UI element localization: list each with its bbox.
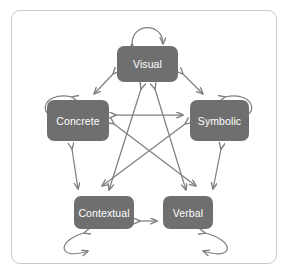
self-loop-contextual <box>64 233 88 254</box>
node-concrete[interactable]: Concrete <box>47 100 109 141</box>
node-symbolic[interactable]: Symbolic <box>190 100 249 141</box>
self-loop-visual <box>132 28 163 45</box>
edge-concrete-verbal <box>114 124 196 186</box>
edge-symbolic-contextual <box>102 124 185 186</box>
node-symbolic-label: Symbolic <box>198 115 241 127</box>
edge-concrete-contextual <box>72 149 78 189</box>
node-contextual[interactable]: Contextual <box>74 196 134 229</box>
edge-visual-concrete <box>94 74 113 94</box>
node-concrete-label: Concrete <box>56 115 99 127</box>
node-verbal-label: Verbal <box>173 207 203 219</box>
node-visual[interactable]: Visual <box>117 46 178 82</box>
node-contextual-label: Contextual <box>78 207 129 219</box>
edge-visual-contextual <box>109 89 141 190</box>
node-visual-label: Visual <box>133 58 162 70</box>
edge-symbolic-verbal <box>213 149 221 189</box>
node-verbal[interactable]: Verbal <box>163 196 213 229</box>
self-loop-verbal <box>203 233 227 254</box>
edge-visual-symbolic <box>183 74 203 94</box>
diagram-canvas: Visual Concrete Symbolic Contextual Verb… <box>0 0 290 274</box>
